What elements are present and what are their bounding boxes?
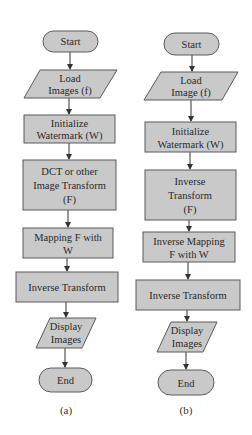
start-terminal-a: Start (43, 31, 98, 52)
dct-transform-process-a: DCT or other Image Transform (F) (23, 160, 116, 210)
node-label: W (63, 245, 73, 256)
inverse-transform-process-b: Inverse Transform (136, 280, 240, 310)
node-label: Inverse Transform (28, 282, 105, 293)
node-label: (F) (63, 194, 76, 206)
node-label: Initialize (51, 118, 89, 129)
node-label: Image (f) (171, 87, 211, 99)
inverse-transform-process-a: Inverse Transform (16, 272, 118, 302)
node-label: Images (f) (48, 85, 92, 97)
node-label: Display (171, 325, 204, 336)
caption-b: (b) (180, 404, 193, 417)
inverse-transform-f-process-b: Inverse Transform (F) (145, 170, 236, 220)
node-label: Load (180, 75, 202, 86)
initialize-watermark-process-b: Initialize Watermark (W) (145, 122, 236, 152)
node-label: Inverse (175, 176, 206, 187)
node-label: Start (61, 36, 81, 47)
node-label: Display (50, 321, 83, 332)
caption-a: (a) (60, 404, 73, 417)
start-terminal-b: Start (164, 33, 219, 55)
node-label: Images (172, 338, 202, 349)
node-label: F with W (169, 249, 209, 260)
inverse-mapping-process-b: Inverse Mapping F with W (143, 232, 235, 262)
initialize-watermark-process-a: Initialize Watermark (W) (24, 115, 115, 143)
node-label: Mapping F with (34, 232, 102, 243)
node-label: DCT or other (41, 166, 98, 177)
load-image-input-b: Load Image (f) (144, 72, 238, 100)
end-terminal-b: End (158, 370, 214, 395)
node-label: Initialize (172, 126, 210, 137)
load-images-input-a: Load Images (f) (24, 70, 117, 98)
flowchart-canvas: Start Load Images (f) Initialize Waterma… (0, 0, 252, 435)
display-images-output-a: Display Images (36, 318, 96, 348)
node-label: Image Transform (33, 180, 106, 191)
mapping-process-a: Mapping F with W (23, 228, 113, 258)
node-label: Transform (168, 190, 212, 201)
node-label: Inverse Mapping (153, 236, 225, 247)
node-label: Load (59, 73, 81, 84)
node-label: End (57, 375, 75, 386)
node-label: End (178, 378, 196, 389)
node-label: Watermark (W) (37, 130, 103, 142)
node-label: (F) (184, 204, 197, 216)
end-terminal-a: End (39, 368, 92, 392)
flowchart-b: Start Load Image (f) Initialize Watermar… (136, 33, 240, 417)
node-label: Watermark (W) (158, 139, 224, 151)
flowchart-a: Start Load Images (f) Initialize Waterma… (16, 31, 118, 417)
node-label: Inverse Transform (149, 290, 226, 301)
display-images-output-b: Display Images (157, 322, 217, 352)
node-label: Images (51, 334, 81, 345)
node-label: Start (182, 39, 202, 50)
